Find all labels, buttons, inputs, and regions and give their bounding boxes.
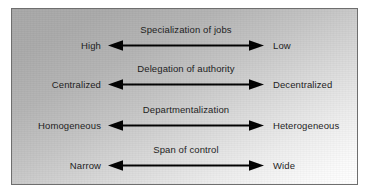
continuum-row: High Specialization of jobs Low bbox=[12, 24, 358, 58]
right-pole-label: Wide bbox=[273, 159, 295, 172]
double-headed-arrow-icon bbox=[108, 38, 264, 53]
continuum-row: Centralized Delegation of authority Dece… bbox=[12, 63, 358, 97]
dimension-label: Departmentalization bbox=[108, 104, 264, 116]
left-pole-label: High bbox=[81, 39, 101, 52]
right-pole-label: Low bbox=[273, 39, 291, 52]
diagram-frame: High Specialization of jobs Low Centrali… bbox=[11, 8, 358, 185]
dimension-label: Specialization of jobs bbox=[108, 24, 264, 36]
left-pole-label: Homogeneous bbox=[38, 119, 101, 132]
double-headed-arrow-icon bbox=[108, 118, 264, 133]
left-pole-label: Narrow bbox=[70, 159, 101, 172]
dimension-label: Delegation of authority bbox=[108, 63, 264, 75]
left-pole-label: Centralized bbox=[52, 78, 101, 91]
right-pole-label: Decentralized bbox=[273, 78, 332, 91]
double-headed-arrow-icon bbox=[108, 77, 264, 92]
dimension-label: Span of control bbox=[108, 144, 264, 156]
continuum-row: Narrow Span of control Wide bbox=[12, 144, 358, 178]
double-headed-arrow-icon bbox=[108, 158, 264, 173]
continuum-row: Homogeneous Departmentalization Heteroge… bbox=[12, 104, 358, 138]
right-pole-label: Heterogeneous bbox=[273, 119, 339, 132]
